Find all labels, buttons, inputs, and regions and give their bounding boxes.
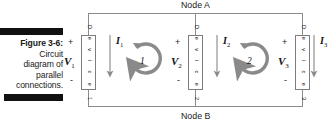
caption-rule-bottom [4, 94, 63, 101]
device-2-char-0: D [193, 25, 199, 29]
voltage-sub-2: 2 [178, 62, 182, 70]
polarity-minus-2: - [177, 76, 180, 85]
current-sub-2: 2 [227, 41, 230, 48]
current-label-1: I1 [116, 36, 123, 50]
loop-label-2: 2 [247, 56, 252, 66]
loop-arrow-2 [240, 43, 267, 73]
node-a-label: Node A [181, 1, 210, 10]
device-1-char-3: i [86, 59, 92, 63]
caption-text: Figure 3-6: Circuit diagram of parallel … [0, 35, 65, 94]
voltage-label-3: V3 [278, 56, 289, 72]
node-b-label: Node B [181, 112, 210, 121]
device-2-char-1: e [193, 36, 199, 40]
device-box-3: D e v i c e 3 [295, 35, 310, 90]
caption-line-1: Circuit [0, 49, 63, 60]
caption-rule-top [0, 28, 63, 35]
device-3-label: D e v i c e 3 [301, 18, 305, 107]
polarity-minus-3: - [284, 76, 287, 85]
device-2-char-2: v [193, 48, 199, 52]
device-1-char-4: c [86, 70, 92, 74]
device-1-char-0: D [86, 25, 92, 29]
voltage-sub-3: 3 [285, 62, 289, 70]
device-2-char-6: 2 [193, 96, 199, 100]
figure-parallel-circuit: Figure 3-6: Circuit diagram of parallel … [0, 0, 332, 134]
caption-line-4: connections. [0, 80, 63, 91]
device-2-char-4: c [193, 70, 199, 74]
figure-caption-block: Figure 3-6: Circuit diagram of parallel … [0, 28, 65, 101]
device-2-char-3: i [193, 59, 199, 63]
caption-line-3: parallel [0, 70, 63, 81]
loop-label-1: 1 [140, 56, 145, 66]
device-3-char-2: v [300, 48, 306, 52]
polarity-plus-3: + [282, 38, 287, 47]
device-3-char-3: i [300, 59, 306, 63]
device-1-char-1: e [86, 36, 92, 40]
device-1-char-6: 1 [86, 96, 92, 100]
device-1-char-5: e [86, 82, 92, 86]
current-sub-1: 1 [120, 41, 123, 48]
device-3-char-6: 3 [300, 96, 306, 100]
figure-number-label: Figure 3-6: [0, 38, 63, 49]
device-3-char-4: c [300, 70, 306, 74]
current-sub-3: 3 [324, 41, 327, 48]
device-2-char-5: e [193, 82, 199, 86]
device-3-char-1: e [300, 36, 306, 40]
current-label-2: I2 [223, 36, 230, 50]
device-box-1: D e v i c e 1 [81, 35, 96, 90]
device-1-char-2: v [86, 48, 92, 52]
device-2-label: D e v i c e 2 [194, 18, 198, 107]
voltage-sub-1: 1 [71, 62, 75, 70]
device-3-char-5: e [300, 82, 306, 86]
device-box-2: D e v i c e 2 [188, 35, 203, 90]
device-1-label: D e v i c e 1 [87, 18, 91, 107]
voltage-label-2: V2 [171, 56, 182, 72]
polarity-plus-1: + [68, 38, 73, 47]
device-3-char-0: D [300, 25, 306, 29]
polarity-minus-1: - [70, 76, 73, 85]
polarity-plus-2: + [175, 38, 180, 47]
voltage-label-1: V1 [64, 56, 75, 72]
loop-arrow-1 [133, 43, 160, 73]
current-label-3: I3 [320, 36, 327, 50]
caption-line-2: diagram of [0, 59, 63, 70]
